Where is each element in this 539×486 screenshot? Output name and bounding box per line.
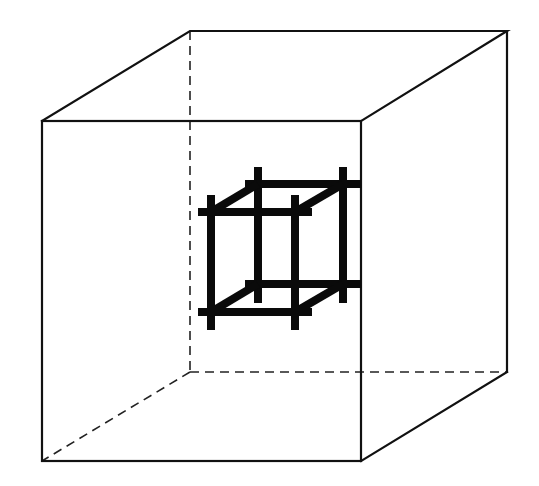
cube-diagram <box>0 0 539 486</box>
inner-diag-top-right <box>295 184 343 212</box>
inner-diag-bottom-right <box>295 284 343 312</box>
outer-top-face <box>42 31 507 121</box>
inner-bar-cube <box>198 167 361 330</box>
outer-cube <box>42 31 507 461</box>
outer-front-face <box>42 121 361 461</box>
inner-diag-top-left <box>211 184 258 212</box>
inner-diag-bottom-left <box>211 284 258 312</box>
outer-bottom-right-diagonal <box>361 372 507 461</box>
hidden-edge-bottom-left-diagonal <box>42 372 190 461</box>
